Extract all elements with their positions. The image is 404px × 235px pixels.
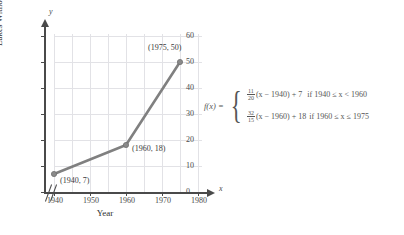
formula-case-row: 32 15 (x − 1960) + 18 if 1960 ≤ x ≤ 1975 (247, 110, 369, 123)
point-annotation-1975: (1975, 50) (148, 43, 181, 52)
x-axis-title: Year (40, 208, 170, 218)
formula-case-row: 11 20 (x − 1940) + 7 if 1940 ≤ x < 1960 (247, 88, 369, 101)
x-axis-letter: x (219, 184, 223, 193)
left-brace-icon: { (230, 92, 241, 119)
x-tick-label: 1980 (184, 196, 214, 205)
case-expression: (x − 1940) + 7 (256, 90, 302, 99)
fraction-1: 11 20 (247, 88, 255, 101)
fraction-2: 32 15 (247, 110, 255, 123)
function-name-label: f(x) = (204, 101, 224, 111)
plot-region: y x 0 10 20 30 40 50 60 (44, 26, 202, 196)
formula-cases: 11 20 (x − 1940) + 7 if 1940 ≤ x < 1960 … (247, 88, 369, 123)
fraction-denominator: 20 (247, 94, 255, 101)
x-tick-label: 1970 (148, 196, 178, 205)
piecewise-formula: f(x) = { 11 20 (x − 1940) + 7 if 1940 ≤ … (204, 88, 369, 123)
case-condition: if 1960 ≤ x ≤ 1975 (309, 112, 369, 121)
y-axis-title: Lakes Without Brown Trout (percent) (0, 0, 4, 46)
point-annotation-1960: (1960, 18) (132, 144, 165, 153)
x-tick-label: 1960 (112, 196, 142, 205)
chart-area: Lakes Without Brown Trout (percent) Year (0, 0, 225, 235)
point-annotation-1940: (1940, 7) (60, 176, 89, 185)
x-tick-label: 1940 (40, 196, 70, 205)
case-condition: if 1940 ≤ x < 1960 (307, 90, 367, 99)
x-tick-label: 1950 (76, 196, 106, 205)
fraction-denominator: 15 (247, 116, 255, 123)
case-expression: (x − 1960) + 18 (256, 112, 306, 121)
y-axis-letter: y (49, 7, 53, 16)
figure-root: Lakes Without Brown Trout (percent) Year (0, 0, 404, 235)
